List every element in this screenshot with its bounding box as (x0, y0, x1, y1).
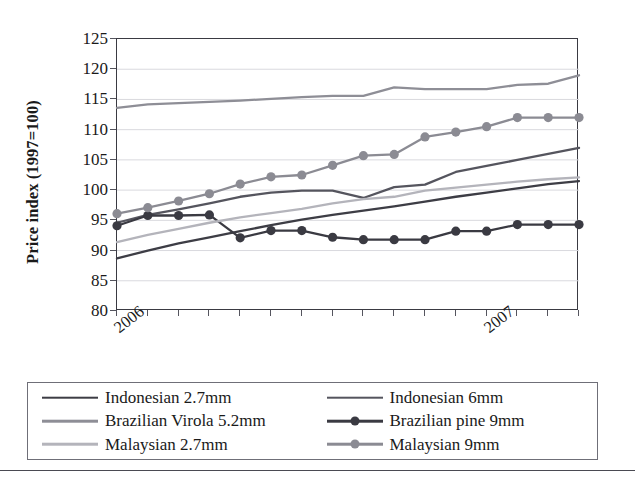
legend-swatch-line-marker-icon (327, 437, 383, 451)
legend-label: Brazilian pine 9mm (390, 412, 525, 429)
data-point-marker (297, 170, 306, 179)
legend-item[interactable]: Indonesian 6mm (313, 386, 598, 409)
data-point-marker (390, 150, 399, 159)
legend-marker-dot (350, 440, 359, 449)
y-tick-mark (110, 68, 116, 69)
y-tick-mark (110, 129, 116, 130)
data-point-marker (420, 235, 429, 244)
data-point-marker (143, 203, 152, 212)
legend-swatch-line-icon (327, 391, 383, 405)
data-point-marker (266, 226, 275, 235)
data-point-marker (390, 235, 399, 244)
x-tick-mark (270, 310, 271, 316)
y-tick-mark (110, 159, 116, 160)
legend-swatch-line-marker-icon (327, 414, 383, 428)
legend-item[interactable]: Malaysian 9mm (313, 433, 598, 456)
y-tick-mark (110, 250, 116, 251)
y-tick-mark (110, 98, 116, 99)
legend: Indonesian 2.7mmIndonesian 6mmBrazilian … (27, 382, 598, 460)
x-tick-mark (301, 310, 302, 316)
gridlines (117, 69, 579, 281)
legend-line (42, 420, 98, 423)
data-point-marker (451, 227, 460, 236)
x-tick-mark (332, 310, 333, 316)
legend-item[interactable]: Malaysian 2.7mm (28, 433, 313, 456)
y-tick-label: 120 (66, 60, 108, 77)
x-tick-mark (547, 310, 548, 316)
data-point-marker (236, 179, 245, 188)
data-point-marker (574, 220, 583, 229)
series-line (117, 118, 579, 214)
data-point-marker (297, 226, 306, 235)
series-line (117, 181, 579, 258)
y-tick-label: 110 (66, 120, 108, 137)
data-point-marker (205, 189, 214, 198)
data-point-marker (205, 210, 214, 219)
series-markers (112, 113, 583, 244)
y-axis-tick-labels: 12512011511010510095908580 (58, 0, 108, 380)
series-paths (117, 75, 579, 258)
data-point-marker (236, 233, 245, 242)
data-point-marker (513, 220, 522, 229)
data-point-marker (266, 172, 275, 181)
x-tick-mark (486, 310, 487, 316)
data-point-marker (328, 161, 337, 170)
legend-label: Brazilian Virola 5.2mm (105, 412, 266, 429)
x-tick-mark (208, 310, 209, 316)
data-point-marker (544, 113, 553, 122)
legend-grid: Indonesian 2.7mmIndonesian 6mmBrazilian … (28, 383, 597, 459)
data-point-marker (513, 113, 522, 122)
data-point-marker (544, 220, 553, 229)
legend-item[interactable]: Brazilian pine 9mm (313, 409, 598, 432)
y-tick-mark (110, 189, 116, 190)
x-tick-mark (455, 310, 456, 316)
y-tick-label: 95 (66, 211, 108, 228)
data-point-marker (574, 113, 583, 122)
legend-label: Malaysian 2.7mm (105, 436, 228, 453)
data-point-marker (359, 151, 368, 160)
legend-swatch-line-icon (42, 437, 98, 451)
data-point-marker (482, 122, 491, 131)
legend-item[interactable]: Brazilian Virola 5.2mm (28, 409, 313, 432)
series-line (117, 177, 579, 242)
chart-area: Price index (1997=100) 12512011511010510… (0, 0, 635, 380)
series-layer (117, 39, 579, 311)
legend-marker-dot (350, 416, 359, 425)
price-index-figure: Price index (1997=100) 12512011511010510… (0, 0, 635, 486)
series-line (117, 148, 579, 223)
data-point-marker (482, 227, 491, 236)
x-tick-mark (362, 310, 363, 316)
data-point-marker (174, 196, 183, 205)
y-tick-label: 105 (66, 150, 108, 167)
footer-rule (0, 470, 635, 471)
legend-label: Indonesian 2.7mm (105, 389, 232, 406)
data-point-marker (112, 209, 121, 218)
x-tick-mark (178, 310, 179, 316)
legend-label: Malaysian 9mm (390, 436, 500, 453)
legend-line (42, 396, 98, 399)
y-tick-mark (110, 219, 116, 220)
data-point-marker (112, 221, 121, 230)
y-tick-mark (110, 38, 116, 39)
plot-area (116, 38, 578, 310)
data-point-marker (359, 235, 368, 244)
data-point-marker (143, 211, 152, 220)
y-axis-label: Price index (1997=100) (23, 57, 43, 307)
data-point-marker (174, 211, 183, 220)
y-tick-label: 125 (66, 30, 108, 47)
x-tick-mark (239, 310, 240, 316)
legend-swatch-line-icon (42, 391, 98, 405)
y-tick-label: 100 (66, 181, 108, 198)
x-tick-mark (578, 310, 579, 316)
legend-item[interactable]: Indonesian 2.7mm (28, 386, 313, 409)
data-point-marker (328, 233, 337, 242)
y-tick-label: 115 (66, 90, 108, 107)
x-tick-mark (393, 310, 394, 316)
y-tick-mark (110, 280, 116, 281)
data-point-marker (451, 127, 460, 136)
legend-label: Indonesian 6mm (390, 389, 504, 406)
x-tick-mark (424, 310, 425, 316)
legend-line (327, 396, 383, 399)
legend-line (42, 443, 98, 446)
y-tick-label: 85 (66, 271, 108, 288)
